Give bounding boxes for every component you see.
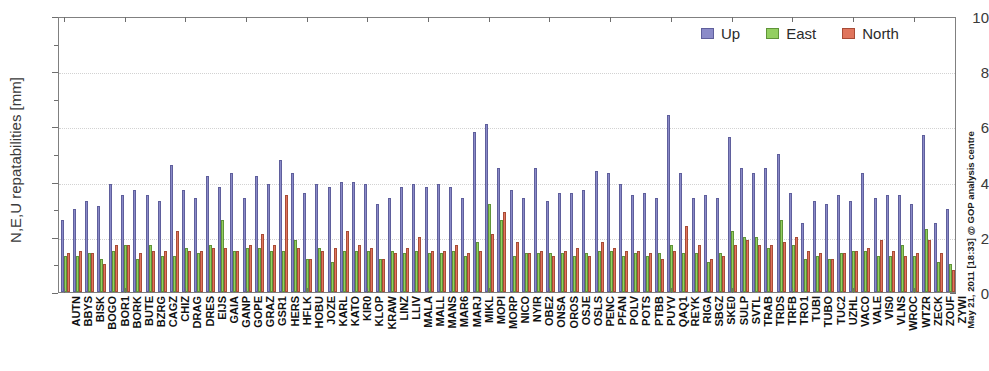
gridline <box>59 128 955 129</box>
analysis-centre-credit: May 21, 2011 [18:33] @ GOP analysis cent… <box>962 105 978 355</box>
bar-north <box>321 251 324 292</box>
gridline <box>59 73 955 74</box>
x-tick-top <box>853 17 854 22</box>
bar-north <box>637 251 640 292</box>
bar-north <box>564 251 567 292</box>
x-tick-bottom <box>853 288 854 293</box>
bar-north <box>103 264 106 292</box>
bar-north <box>892 251 895 292</box>
legend-label-up: Up <box>721 25 740 42</box>
x-tick-bottom <box>185 288 186 293</box>
bar-north <box>370 248 373 292</box>
bar-north <box>880 240 883 292</box>
legend-swatch-east-icon <box>766 28 779 39</box>
x-tick-top <box>489 17 490 22</box>
bar-north <box>916 253 919 292</box>
y-axis-title-label: N,E,U repatabilities [mm] <box>7 77 24 243</box>
bar-north <box>831 259 834 292</box>
bar-north <box>685 226 688 292</box>
bar-north <box>867 248 870 292</box>
bar-north <box>661 259 664 292</box>
bar-north <box>613 248 616 292</box>
x-tick-top <box>732 17 733 22</box>
bar-north <box>904 256 907 292</box>
bar-north <box>503 212 506 292</box>
x-tick-bottom <box>792 288 793 293</box>
bar-north <box>382 259 385 292</box>
x-tick-bottom <box>367 288 368 293</box>
bar-north <box>783 242 786 292</box>
bar-north <box>285 195 288 292</box>
bar-north <box>224 248 227 292</box>
bar-north <box>758 245 761 292</box>
bar-north <box>649 253 652 292</box>
bar-north <box>176 231 179 292</box>
x-tick-top <box>792 17 793 22</box>
bar-north <box>249 245 252 292</box>
bar-north <box>115 245 118 292</box>
bar-north <box>588 256 591 292</box>
bar-north <box>746 240 749 292</box>
bar-north <box>940 253 943 292</box>
bar-north <box>734 245 737 292</box>
bar-north <box>807 251 810 292</box>
bar-north <box>139 253 142 292</box>
x-tick-top <box>125 17 126 22</box>
bar-north <box>516 242 519 292</box>
bar-north <box>601 242 604 292</box>
bar-north <box>528 253 531 292</box>
x-tick-top <box>610 17 611 22</box>
bar-north <box>346 231 349 292</box>
bar-north <box>79 251 82 292</box>
bar-north <box>418 237 421 292</box>
x-tick-top <box>549 17 550 22</box>
legend-item-east: East <box>766 25 816 42</box>
bar-north <box>479 251 482 292</box>
bar-north <box>200 251 203 292</box>
x-tick-bottom <box>549 288 550 293</box>
bar-north <box>443 251 446 292</box>
x-tick-top <box>64 17 65 22</box>
x-tick-bottom <box>489 288 490 293</box>
x-tick-bottom <box>428 288 429 293</box>
x-tick-top <box>307 17 308 22</box>
legend-label-north: North <box>862 25 899 42</box>
bar-north <box>261 234 264 292</box>
x-tick-bottom <box>64 288 65 293</box>
legend-swatch-north-icon <box>842 28 855 39</box>
bar-north <box>91 253 94 292</box>
bar-north <box>843 253 846 292</box>
x-tick-bottom <box>246 288 247 293</box>
bar-north <box>164 251 167 292</box>
bar-north <box>855 251 858 292</box>
bar-north <box>552 256 555 292</box>
legend-label-east: East <box>786 25 816 42</box>
x-axis-labels: AUTNBBYSBISKBOGOBOR1BORKBUTEBZRGCAGZCHIZ… <box>58 296 956 371</box>
bar-north <box>334 248 337 292</box>
bar-north <box>491 234 494 292</box>
bar-north <box>152 251 155 292</box>
x-tick-bottom <box>671 288 672 293</box>
bar-north <box>625 251 628 292</box>
bar-north <box>770 245 773 292</box>
bar-north <box>928 240 931 292</box>
bar-north <box>673 251 676 292</box>
legend: Up East North <box>701 21 899 45</box>
legend-swatch-up-icon <box>701 28 714 39</box>
bar-north <box>273 245 276 292</box>
bar-north <box>576 248 579 292</box>
bar-north <box>467 253 470 292</box>
gridline <box>59 184 955 185</box>
bar-north <box>431 251 434 292</box>
bar-north <box>722 256 725 292</box>
x-tick-bottom <box>307 288 308 293</box>
legend-item-north: North <box>842 25 899 42</box>
x-tick-top <box>367 17 368 22</box>
bar-north <box>698 245 701 292</box>
legend-item-up: Up <box>701 25 740 42</box>
bar-north <box>406 248 409 292</box>
bar-north <box>710 259 713 292</box>
x-tick-top <box>428 17 429 22</box>
bar-north <box>188 251 191 292</box>
bar-north <box>297 248 300 292</box>
